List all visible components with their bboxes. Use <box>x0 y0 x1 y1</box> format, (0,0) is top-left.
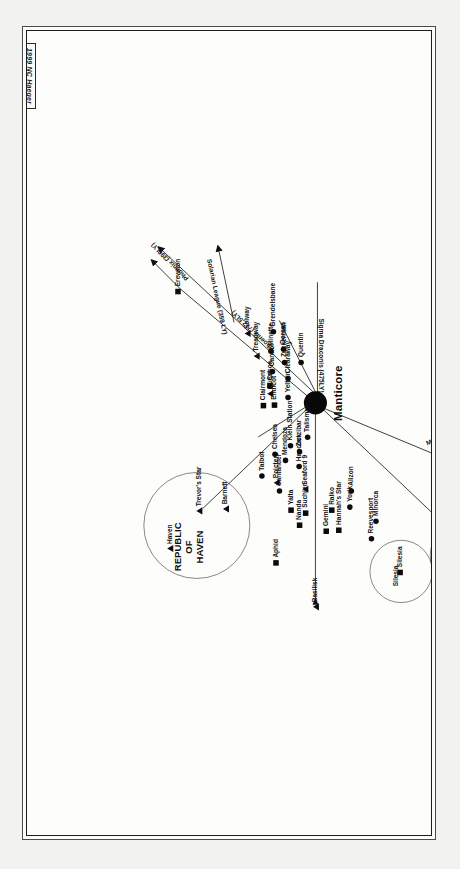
system-marker-endicot <box>272 402 278 408</box>
system-label-yalta: Yalta <box>287 490 294 505</box>
system-marker-erewhon <box>175 289 181 295</box>
system-marker-aphid <box>273 560 279 566</box>
system-marker-gemini <box>323 528 329 534</box>
system-marker-alizon <box>349 488 355 494</box>
system-label-grendelsbane: Grendelsbane <box>270 283 277 327</box>
system-marker-zanzibar <box>297 449 303 455</box>
copyright-stamp: 1999 NC Haeger <box>26 43 36 109</box>
system-label-aphid: Aphid <box>272 539 279 558</box>
system-marker-treadway <box>254 353 260 360</box>
system-label-talbot: Talbot <box>258 452 265 471</box>
system-marker-seaford-9 <box>302 486 308 493</box>
system-marker-yeltsin <box>285 395 291 401</box>
system-label-seaford-9: Seaford 9 <box>301 455 308 485</box>
system-label-erewhon: Erewhon <box>174 259 181 287</box>
star-map: REPUBLICOFHAVEN SILESIANCONFEDERACY ANDE… <box>129 232 330 634</box>
system-label-minorca: Minorca <box>372 491 379 516</box>
system-marker-klein-station <box>288 443 294 449</box>
system-marker-talisman <box>305 435 311 441</box>
system-marker-quentin <box>298 360 304 366</box>
system-label-talisman: Talisman <box>304 404 311 432</box>
system-marker-silesia <box>397 570 403 576</box>
system-marker-yalta <box>288 507 294 513</box>
system-marker-chelsea <box>272 452 278 458</box>
system-label-zanzibar: Zanzibar <box>296 420 303 447</box>
system-marker-minorca <box>373 518 379 524</box>
system-label-hannah-s-star: Hannah's Star <box>335 481 342 525</box>
route-label-sigma-draconis: Sigma Draconis (475LY) <box>318 318 326 392</box>
route-lines <box>129 232 433 634</box>
system-label-quentin: Quentin <box>297 332 304 357</box>
system-marker-solway <box>245 330 251 337</box>
system-marker-barnett <box>223 505 229 512</box>
system-label-treadway: Treadway <box>253 322 260 352</box>
system-label-trevor-s-star: Trevor's Star <box>195 467 202 507</box>
system-marker-clairmont <box>261 403 267 409</box>
system-label-silesia: Silesia <box>392 566 399 587</box>
system-marker-trevor-s-star <box>196 507 202 514</box>
system-label-clairmont: Clairmont <box>260 370 267 400</box>
system-marker-hannah-s-star <box>336 527 342 533</box>
system-marker-santander <box>277 488 283 494</box>
system-label-clearaway: Clearaway <box>284 341 291 373</box>
system-label-silesia: Silesia <box>396 546 403 567</box>
system-label-endicot: Endicot <box>271 376 278 400</box>
polity-title-republic-of-haven: REPUBLICOFHAVEN <box>173 523 206 571</box>
manticore-hub-label: Manticore <box>332 365 346 420</box>
system-label-basilisk: Basilisk <box>312 578 319 603</box>
system-label-barnett: Barnett <box>222 481 229 504</box>
key-title: Key: <box>430 254 432 323</box>
system-label-haven: Haven <box>166 524 173 544</box>
system-label-klein-station: Klein Station <box>287 401 294 441</box>
system-label-santander: Santander <box>276 454 283 486</box>
system-label-solway: Solway <box>244 306 251 329</box>
system-marker-mendoza <box>283 458 289 464</box>
system-label-yeltsin: Yeltsin <box>284 371 291 392</box>
system-label-alizon: Alizon <box>348 466 355 486</box>
map-frame: 1999 NC Haeger <box>26 30 432 836</box>
system-marker-suchien <box>303 510 309 516</box>
system-marker-nanda <box>297 522 303 528</box>
system-marker-basilisk <box>313 603 319 610</box>
system-marker-haven <box>167 545 173 552</box>
map-paper: 1999 NC Haeger <box>22 26 436 840</box>
system-marker-yorik <box>347 504 353 510</box>
map-key: Key: Haven Manticoran Alliance neutrals <box>430 254 432 323</box>
system-marker-reevesport <box>369 536 375 542</box>
system-marker-talbot <box>259 473 265 479</box>
system-label-chelsea: Chelsea <box>271 424 278 449</box>
screenshot-canvas: 1999 NC Haeger <box>0 0 460 869</box>
